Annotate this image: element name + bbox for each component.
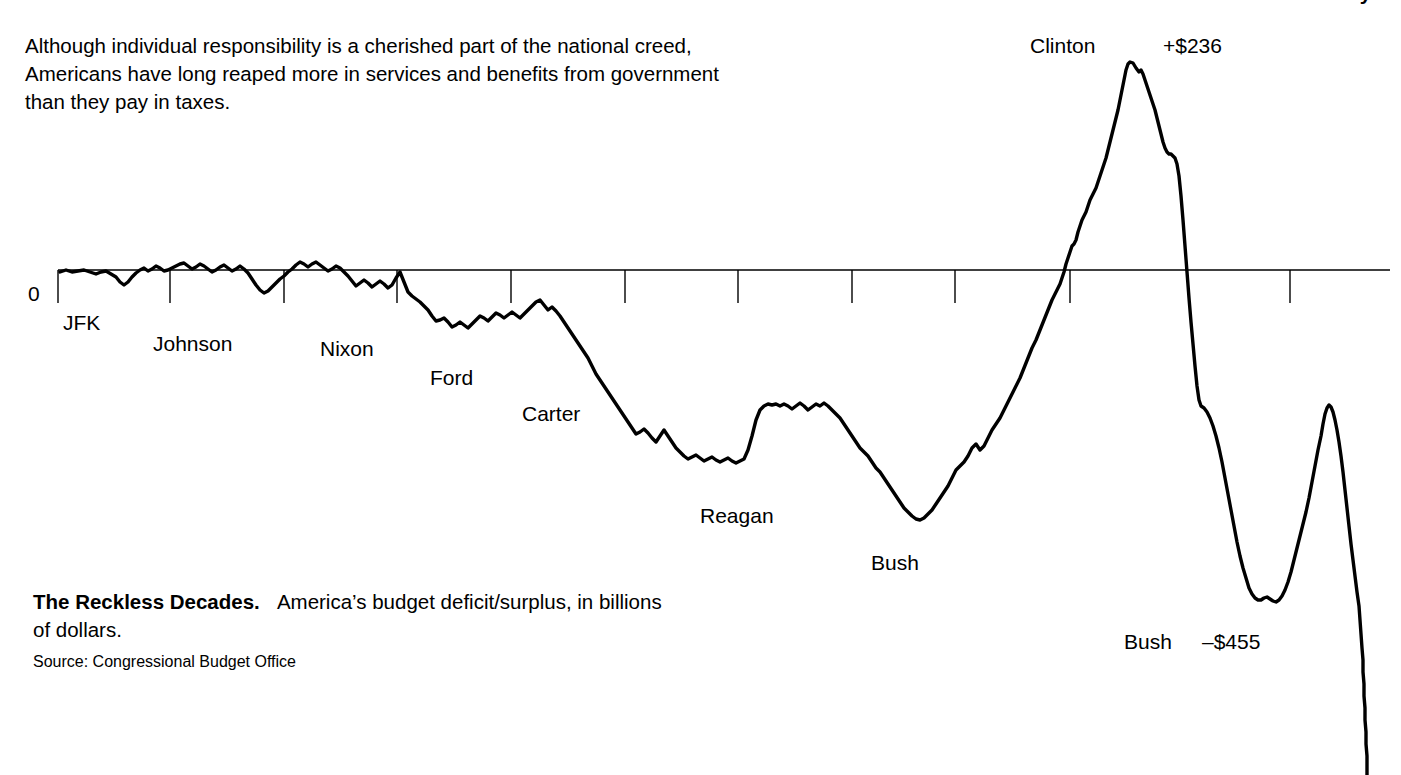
president-label-reagan: Reagan xyxy=(700,504,774,528)
chart-page: Article 3: Can America Pay? Although ind… xyxy=(0,0,1401,775)
caption-source: Source: Congressional Budget Office xyxy=(33,651,673,673)
annotation-clinton-value: +$236 xyxy=(1163,34,1222,58)
caption-text: The Reckless Decades. America’s budget d… xyxy=(33,588,673,644)
caption-lead: The Reckless Decades. xyxy=(33,590,260,613)
president-label-ford: Ford xyxy=(430,366,473,390)
president-label-johnson: Johnson xyxy=(153,332,232,356)
president-label-bush-41: Bush xyxy=(871,551,919,575)
annotation-bush-name: Bush xyxy=(1124,630,1172,654)
chart-caption: The Reckless Decades. America’s budget d… xyxy=(33,588,673,673)
caption-spacer xyxy=(260,590,277,613)
axis-ticks xyxy=(58,270,1290,303)
president-label-nixon: Nixon xyxy=(320,337,374,361)
annotation-clinton-name: Clinton xyxy=(1030,34,1095,58)
president-label-jfk: JFK xyxy=(63,311,100,335)
annotation-bush-value: –$455 xyxy=(1202,630,1260,654)
president-label-carter: Carter xyxy=(522,402,580,426)
axis-zero-label: 0 xyxy=(28,282,40,306)
